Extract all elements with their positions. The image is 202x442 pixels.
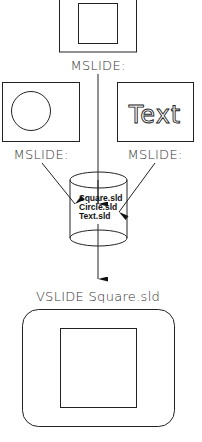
- library-file-3: Text.sld: [79, 211, 111, 221]
- top-slide-frame: [60, 0, 137, 52]
- left-slide-label: MSLIDE:: [13, 147, 68, 162]
- square-shape-icon: [79, 4, 118, 44]
- circle-shape-icon: [12, 92, 51, 131]
- top-slide: [60, 0, 137, 52]
- left-slide-frame: [3, 83, 80, 142]
- slide-workflow-diagram: MSLIDE: MSLIDE: Text MSLIDE: Square.sld …: [0, 0, 202, 442]
- arrow-right-to-library: [119, 163, 155, 212]
- output-screen-frame: [23, 310, 175, 427]
- right-slide: Text: [118, 83, 194, 142]
- output-screen: [23, 310, 175, 427]
- output-label: VSLIDE Square.sld: [36, 289, 160, 304]
- right-slide-label: MSLIDE:: [127, 147, 182, 162]
- left-slide: [3, 83, 80, 142]
- top-slide-label: MSLIDE:: [70, 58, 125, 73]
- square-shape-icon: [61, 329, 137, 408]
- right-slide-text: Text: [128, 101, 182, 129]
